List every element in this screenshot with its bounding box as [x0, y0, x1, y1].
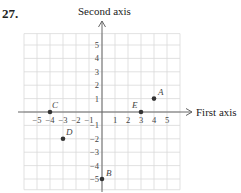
x-axis-title: First axis [196, 106, 237, 118]
x-tick-label: 4 [152, 115, 157, 125]
x-tick-label: 1 [113, 115, 117, 125]
y-tick-label: −2 [90, 134, 99, 144]
axes [18, 21, 192, 192]
y-tick-label: 2 [95, 80, 99, 90]
point-d-marker [61, 137, 66, 142]
x-tick-label: −3 [58, 115, 67, 125]
x-tick-label: 5 [165, 115, 169, 125]
x-tick-label: −4 [45, 115, 55, 125]
coordinate-plane: First axis Second axis −5−4−3−2−112345 5… [0, 0, 241, 193]
point-c-label: C [52, 100, 59, 110]
point-b-label: B [106, 168, 112, 178]
y-tick-label: 1 [95, 94, 99, 104]
x-tick-label: 2 [126, 115, 130, 125]
x-tick-labels: −5−4−3−2−112345 [32, 115, 169, 125]
point-b-marker [100, 177, 105, 182]
y-tick-label: 3 [95, 67, 99, 77]
y-tick-label: −5 [90, 174, 99, 184]
point-e-marker [139, 110, 144, 115]
plotted-points: ABCDE [48, 87, 164, 182]
y-axis-title: Second axis [78, 5, 131, 17]
y-tick-label: −4 [90, 161, 100, 171]
point-d-label: D [65, 127, 73, 137]
x-tick-label: 3 [139, 115, 143, 125]
point-e-label: E [131, 100, 138, 110]
point-a-marker [152, 96, 157, 101]
y-tick-label: 5 [95, 40, 99, 50]
point-c-marker [48, 110, 53, 115]
y-tick-label: −3 [90, 147, 99, 157]
x-tick-label: −5 [32, 115, 41, 125]
x-tick-label: −2 [71, 115, 80, 125]
y-tick-label: −1 [90, 120, 99, 130]
point-a-label: A [157, 87, 164, 97]
